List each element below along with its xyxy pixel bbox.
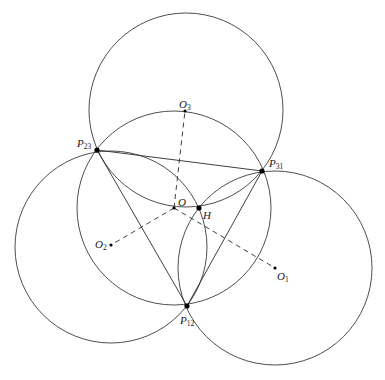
label-p31: P31 [269,158,283,171]
point-o [172,206,175,209]
label-o: O [178,197,186,208]
label-p23: P23 [77,138,91,151]
circle-o2 [15,151,207,343]
label-p31-sub: 31 [276,162,284,171]
label-p23-sub: 23 [84,142,92,151]
label-o1-base: O [277,270,285,282]
point-p12 [184,303,189,308]
label-o3-base: O [179,98,187,110]
label-o3: O3 [179,99,191,112]
dashed-o-o2 [111,208,174,245]
point-o2 [109,243,112,246]
dashed-o-o1 [174,208,275,268]
label-h: H [203,210,211,221]
dashed-o-o3 [174,111,185,208]
label-p31-base: P [269,157,276,169]
label-o2-sub: 2 [103,243,107,252]
label-o3-sub: 3 [187,103,191,112]
label-o1: O1 [277,271,289,284]
label-o1-sub: 1 [285,275,289,284]
label-p12-base: P [180,314,187,326]
label-o-base: O [178,196,186,208]
label-p23-base: P [77,137,84,149]
geometry-diagram: P23 P31 P12 O H O1 O2 O3 [0,0,385,380]
label-p12: P12 [180,315,194,328]
segment-p23-p12 [97,150,187,306]
label-h-base: H [203,209,211,221]
point-h [196,205,201,210]
point-p23 [94,147,99,152]
label-o2-base: O [95,238,103,250]
label-p12-sub: 12 [187,319,195,328]
point-p31 [259,168,264,173]
label-o2: O2 [95,239,107,252]
